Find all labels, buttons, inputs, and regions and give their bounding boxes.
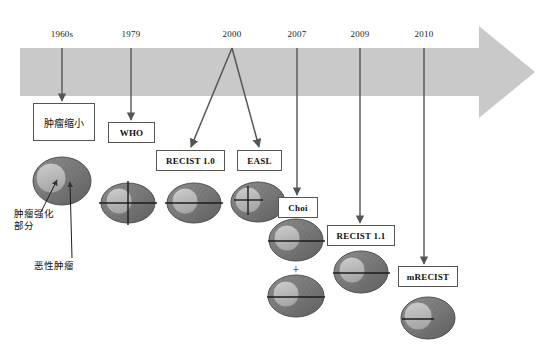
- tumor-icon-choi-a: [268, 219, 325, 261]
- node-easl: EASL: [237, 150, 282, 171]
- node-choi: Choi: [278, 197, 318, 218]
- choi-plus-operator: +: [293, 263, 300, 278]
- year-label-2009: 2009: [351, 29, 370, 39]
- tumor-icon-easl: [231, 182, 285, 222]
- node-recist-1-1: RECIST 1.1: [327, 225, 395, 246]
- year-label-2010: 2010: [415, 29, 434, 39]
- tumor-icon-mrecist: [401, 297, 455, 339]
- year-label-1960s: 1960s: [51, 29, 74, 39]
- node-recist-1-0: RECIST 1.0: [156, 150, 225, 171]
- annotation-enhancing-portion: 肿瘤强化 部分: [14, 208, 54, 232]
- year-label-1979: 1979: [122, 29, 141, 39]
- year-label-2000: 2000: [223, 29, 242, 39]
- tumor-icon-choi-b: [267, 275, 325, 317]
- tumor-icon-who: [99, 181, 157, 225]
- node-who: WHO: [108, 122, 155, 143]
- tumor-icon-recist10: [165, 183, 223, 223]
- node-tumor-shrinkage: 肿瘤缩小: [33, 103, 95, 141]
- timeline-diagram: 1960s 1979 2000 2007 2009 2010 肿瘤缩小 WHO …: [0, 0, 545, 348]
- node-mrecist: mRECIST: [398, 266, 458, 287]
- year-label-2007: 2007: [288, 29, 307, 39]
- tumor-icon-legend: [33, 157, 91, 205]
- timeline-arrow: [20, 26, 535, 118]
- annotation-malignant-tumor: 恶性肿瘤: [34, 260, 74, 272]
- diagram-canvas: [0, 0, 545, 348]
- tumor-icon-recist11: [333, 251, 390, 293]
